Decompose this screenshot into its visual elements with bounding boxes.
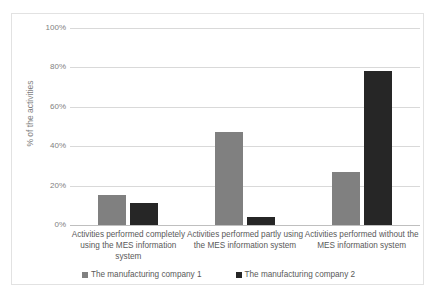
y-axis-tick-label: 0%	[30, 221, 66, 229]
chart-legend: The manufacturing company 1The manufactu…	[12, 270, 425, 280]
legend-item-1[interactable]: The manufacturing company 1	[82, 270, 202, 280]
plot-area	[70, 28, 420, 226]
bar-2-category-2	[247, 217, 275, 225]
y-axis-tick-label: 20%	[30, 182, 66, 190]
legend-item-2[interactable]: The manufacturing company 2	[236, 270, 356, 280]
legend-swatch-icon	[82, 272, 88, 278]
bar-2-category-3	[364, 71, 392, 225]
chart-container: 0%20%40%60%80%100% % of the activities A…	[11, 13, 424, 285]
legend-label: The manufacturing company 1	[91, 270, 202, 280]
x-axis-category-labels: Activities performed completely using th…	[70, 229, 420, 269]
category-label-2: Activities performed partly using the ME…	[187, 229, 304, 251]
y-axis-tick-label: 60%	[30, 103, 66, 111]
y-axis: 0%20%40%60%80%100%	[30, 28, 66, 226]
bar-group	[215, 28, 275, 225]
category-label-1: Activities performed completely using th…	[70, 229, 187, 263]
legend-swatch-icon	[236, 272, 242, 278]
category-label-3: Activities performed without the MES inf…	[303, 229, 420, 251]
y-axis-tick-label: 100%	[30, 24, 66, 32]
bar-group	[98, 28, 158, 225]
bar-1-category-3	[332, 172, 360, 225]
legend-label: The manufacturing company 2	[245, 270, 356, 280]
bar-1-category-2	[215, 132, 243, 225]
bar-group	[332, 28, 392, 225]
y-axis-title: % of the activities	[26, 64, 35, 164]
y-axis-tick-label: 80%	[30, 63, 66, 71]
y-axis-tick-label: 40%	[30, 142, 66, 150]
bar-1-category-1	[98, 195, 126, 225]
x-axis-line	[70, 225, 420, 226]
bar-2-category-1	[130, 203, 158, 225]
